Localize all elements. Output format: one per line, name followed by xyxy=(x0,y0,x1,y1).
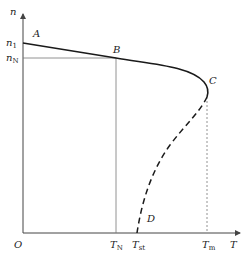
point-C-label: C xyxy=(209,75,217,86)
Tst-label: Tst xyxy=(132,239,145,252)
point-B-label: B xyxy=(112,44,120,55)
Tm-label: Tm xyxy=(202,239,216,252)
x-axis-label: T xyxy=(230,239,238,250)
speed-torque-diagram: n T O n1 nN TN Tst Tm A B C D xyxy=(0,0,248,258)
y-axis-label: n xyxy=(10,6,16,17)
point-A-label: A xyxy=(32,28,40,39)
TN-label: TN xyxy=(110,239,123,252)
n1-label: n1 xyxy=(6,37,17,50)
origin-label: O xyxy=(14,239,22,250)
nN-label: nN xyxy=(6,52,19,65)
point-D-label: D xyxy=(146,213,155,224)
